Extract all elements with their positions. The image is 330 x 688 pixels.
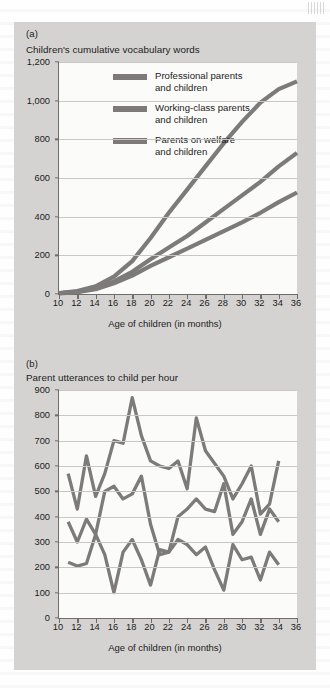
y-axis-tick [55, 541, 59, 542]
panel-b-series-lines [59, 390, 297, 618]
y-axis-tick [55, 100, 59, 101]
gridline [59, 139, 297, 140]
x-axis-tick-label: 34 [273, 622, 283, 632]
y-axis-tick-label: 800 [14, 410, 50, 420]
panel-a-plot-area: Professional parents and children Workin… [58, 62, 297, 295]
legend-label-line2: and children [155, 82, 207, 93]
y-axis-tick [55, 415, 59, 416]
x-axis-tick-label: 10 [53, 298, 63, 308]
x-axis-tick-label: 28 [218, 298, 228, 308]
x-axis-tick-label: 14 [89, 622, 99, 632]
x-axis-tick-label: 16 [108, 298, 118, 308]
x-axis-tick-label: 30 [236, 622, 246, 632]
y-axis-tick-label: 200 [14, 562, 50, 572]
y-axis-tick-label: 100 [14, 588, 50, 598]
gridline [59, 466, 297, 467]
x-axis-tick-label: 22 [163, 622, 173, 632]
panel-a-tag: (a) [26, 28, 38, 39]
figure-container: (a) Children's cumulative vocabulary wor… [14, 22, 316, 670]
gridline [59, 415, 297, 416]
y-axis-tick [55, 465, 59, 466]
legend-label-working-class: Working-class parents and children [155, 102, 250, 125]
panel-a-xaxis-title: Age of children (in months) [14, 318, 316, 329]
y-axis-tick [55, 440, 59, 441]
legend-item: Working-class parents and children [113, 102, 250, 125]
y-axis-tick-label: 1,000 [14, 96, 50, 106]
y-axis-tick-label: 600 [14, 461, 50, 471]
gridline [59, 441, 297, 442]
panel-b-plot-area [58, 390, 297, 619]
y-axis-tick [55, 139, 59, 140]
legend-item: Professional parents and children [113, 70, 250, 93]
x-axis-tick-label: 26 [199, 622, 209, 632]
y-axis-tick [55, 255, 59, 256]
x-axis-tick-label: 26 [199, 298, 209, 308]
panel-b-title: Parent utterances to child per hour [26, 372, 178, 383]
gridline [59, 178, 297, 179]
gridline [59, 593, 297, 594]
gridline [59, 255, 297, 256]
y-axis-tick [55, 216, 59, 217]
panel-b-tag: (b) [26, 358, 38, 369]
legend-label-line1: Working-class parents [155, 102, 250, 113]
x-axis-tick-label: 10 [53, 622, 63, 632]
gridline [59, 62, 297, 63]
panel-a: (a) Children's cumulative vocabulary wor… [14, 22, 316, 352]
x-axis-tick-label: 32 [254, 298, 264, 308]
y-axis-tick [55, 389, 59, 390]
y-axis-tick [55, 177, 59, 178]
x-axis-tick-label: 20 [144, 298, 154, 308]
gridline [59, 390, 297, 391]
x-axis-tick-label: 22 [163, 298, 173, 308]
series-line-3 [68, 534, 279, 592]
y-axis-tick-label: 300 [14, 537, 50, 547]
gridline [59, 101, 297, 102]
x-axis-tick-label: 28 [218, 622, 228, 632]
y-axis-tick-label: 200 [14, 250, 50, 260]
y-axis-tick-label: 900 [14, 385, 50, 395]
gridline [59, 567, 297, 568]
y-axis-tick [55, 592, 59, 593]
page-corner-artifact [308, 2, 324, 14]
gridline [59, 517, 297, 518]
legend: Professional parents and children Workin… [113, 70, 250, 157]
y-axis-tick-label: 0 [14, 613, 50, 623]
legend-label-professional: Professional parents and children [155, 70, 242, 93]
y-axis-tick [55, 516, 59, 517]
legend-swatch-professional [113, 74, 147, 80]
x-axis-tick-label: 30 [236, 298, 246, 308]
x-axis-tick-label: 12 [71, 298, 81, 308]
panel-b-xaxis-title: Age of children (in months) [14, 642, 316, 653]
gridline [59, 542, 297, 543]
panel-b: (b) Parent utterances to child per hour … [14, 352, 316, 670]
y-axis-tick [55, 567, 59, 568]
y-axis-tick [55, 61, 59, 62]
series-line-2 [59, 153, 297, 293]
x-axis-tick-label: 24 [181, 298, 191, 308]
legend-label-line2: and children [155, 114, 207, 125]
legend-label-line2: and children [155, 146, 207, 157]
x-axis-tick-label: 24 [181, 622, 191, 632]
gridline [59, 217, 297, 218]
panel-a-title: Children's cumulative vocabulary words [26, 44, 200, 55]
y-axis-tick-label: 800 [14, 134, 50, 144]
x-axis-tick-label: 36 [291, 622, 301, 632]
x-axis-tick-label: 32 [254, 622, 264, 632]
legend-swatch-working-class [113, 106, 147, 112]
y-axis-tick-label: 0 [14, 289, 50, 299]
x-axis-tick-label: 12 [71, 622, 81, 632]
x-axis-tick-label: 14 [89, 298, 99, 308]
gridline [59, 491, 297, 492]
y-axis-tick-label: 400 [14, 212, 50, 222]
x-axis-tick-label: 36 [291, 298, 301, 308]
x-axis-tick-label: 34 [273, 298, 283, 308]
x-axis-tick-label: 16 [108, 622, 118, 632]
legend-label-line1: Professional parents [155, 70, 242, 81]
y-axis-tick-label: 600 [14, 173, 50, 183]
x-axis-tick-label: 18 [126, 622, 136, 632]
y-axis-tick-label: 500 [14, 486, 50, 496]
y-axis-tick-label: 1,200 [14, 57, 50, 67]
x-axis-tick-label: 18 [126, 298, 136, 308]
x-axis-tick-label: 20 [144, 622, 154, 632]
y-axis-tick-label: 400 [14, 512, 50, 522]
